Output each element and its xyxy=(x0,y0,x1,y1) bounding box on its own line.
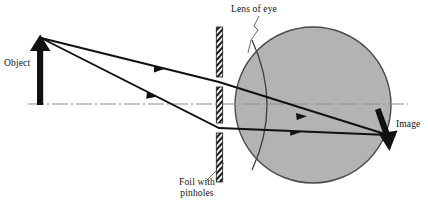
optics-diagram: Object Lens of eye Foil with pinholes Im… xyxy=(0,0,428,206)
foil-segment-bottom xyxy=(216,133,222,182)
pinhole-foil xyxy=(216,27,222,182)
foil-label-line-2: pinholes xyxy=(180,188,213,198)
lens-of-eye-label: Lens of eye xyxy=(231,4,277,15)
foil-with-pinholes-label: Foil with pinholes xyxy=(166,177,228,198)
diagram-canvas xyxy=(0,0,428,206)
image-label: Image xyxy=(396,119,421,130)
foil-segment-top xyxy=(216,27,222,77)
foil-segment-middle xyxy=(216,87,222,123)
foil-label-line-1: Foil with xyxy=(179,177,215,187)
eyeball-circle xyxy=(235,27,391,183)
object-label: Object xyxy=(4,58,30,69)
leader-lens-of-eye xyxy=(248,16,259,53)
object-arrow xyxy=(30,35,51,106)
